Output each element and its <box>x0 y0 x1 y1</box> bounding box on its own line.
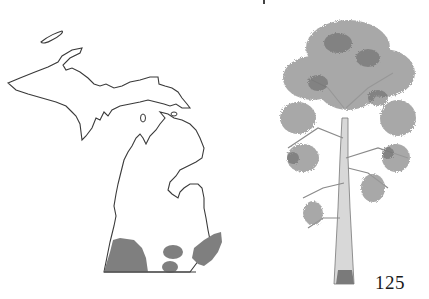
page-number: 125 <box>375 272 405 294</box>
island-beaver <box>141 114 146 122</box>
cropped-text-remnant <box>263 0 265 4</box>
island-bois-blanc <box>171 112 177 116</box>
field-guide-page: 125 <box>0 0 429 299</box>
isle-royale <box>41 31 63 43</box>
range-map-michigan <box>0 20 250 290</box>
range-central-north <box>163 245 183 259</box>
range-central-south <box>162 261 178 273</box>
tree-illustration <box>268 8 428 288</box>
tree-trunk <box>334 118 354 284</box>
